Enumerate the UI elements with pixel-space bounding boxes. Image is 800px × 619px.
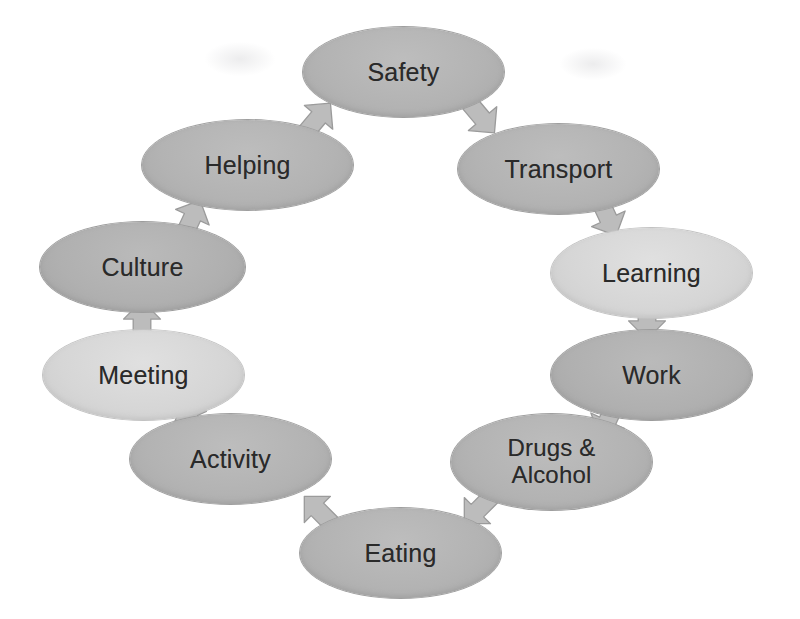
node-work[interactable]: Work [551,330,752,420]
node-safety[interactable]: Safety [303,27,504,117]
node-culture[interactable]: Culture [40,222,245,312]
node-label-learning: Learning [602,259,701,287]
node-activity[interactable]: Activity [130,414,331,504]
node-label-transport: Transport [505,155,613,183]
diagram-canvas: SafetyTransportLearningWorkDrugs & Alcoh… [0,0,800,619]
node-label-drugs-alcohol: Drugs & Alcohol [507,435,595,489]
node-label-meeting: Meeting [98,361,188,389]
node-label-culture: Culture [102,253,184,281]
node-meeting[interactable]: Meeting [43,330,244,420]
node-label-work: Work [622,361,681,389]
node-label-eating: Eating [364,539,436,567]
node-label-activity: Activity [190,445,271,473]
node-eating[interactable]: Eating [300,508,501,598]
node-transport[interactable]: Transport [458,124,659,214]
node-learning[interactable]: Learning [551,228,752,318]
node-drugs-alcohol[interactable]: Drugs & Alcohol [451,414,652,510]
smudge-right [560,48,626,80]
node-label-helping: Helping [204,151,290,179]
node-helping[interactable]: Helping [142,120,353,210]
smudge-left [205,42,275,76]
node-label-safety: Safety [367,58,439,86]
